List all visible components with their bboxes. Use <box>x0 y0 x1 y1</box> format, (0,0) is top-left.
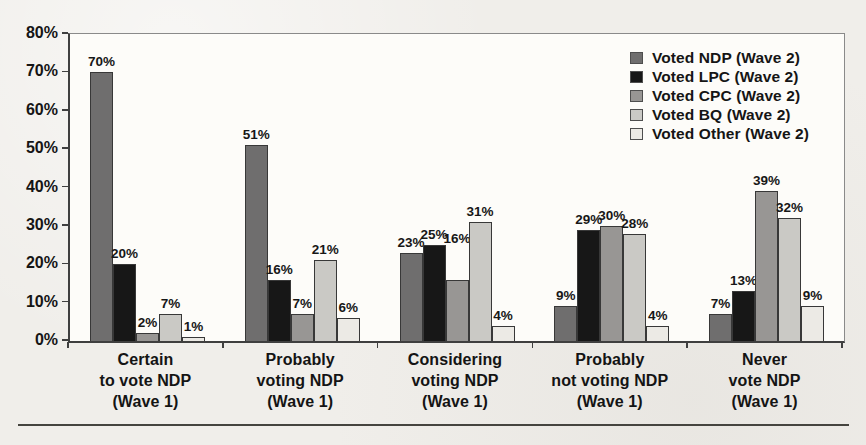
x-axis-category-label-0: Certain to vote NDP (Wave 1) <box>68 349 223 412</box>
legend-swatch-icon <box>630 71 643 83</box>
bar-series-4-group-0 <box>182 337 205 341</box>
bar-series-3-group-3 <box>623 234 646 341</box>
bar-value-label: 70% <box>88 54 115 69</box>
legend-item-3: Voted BQ (Wave 2) <box>630 107 809 123</box>
bar-series-3-group-1 <box>314 260 337 341</box>
bar-value-label: 28% <box>621 216 648 231</box>
bar-chart: 70%20%2%7%1%51%16%7%21%6%23%25%16%31%4%9… <box>0 0 866 445</box>
bar-value-label: 6% <box>338 300 358 315</box>
bar-value-label: 20% <box>111 246 138 261</box>
bar-series-2-group-3 <box>600 226 623 341</box>
chart-legend: Voted NDP (Wave 2)Voted LPC (Wave 2)Vote… <box>630 50 809 142</box>
legend-item-2: Voted CPC (Wave 2) <box>630 88 809 104</box>
x-axis-tick-mark <box>377 342 379 348</box>
legend-item-1: Voted LPC (Wave 2) <box>630 69 809 85</box>
bar-series-1-group-0 <box>113 264 136 341</box>
y-axis-tick-label: 50% <box>0 139 58 157</box>
y-axis-tick-label: 0% <box>0 331 58 349</box>
x-axis-tick-mark <box>222 342 224 348</box>
legend-label: Voted BQ (Wave 2) <box>652 106 791 124</box>
bar-value-label: 31% <box>466 204 493 219</box>
legend-item-0: Voted NDP (Wave 2) <box>630 50 809 66</box>
bar-value-label: 1% <box>184 319 204 334</box>
bar-series-3-group-2 <box>469 222 492 341</box>
y-axis-tick-mark <box>62 147 68 149</box>
bar-value-label: 13% <box>730 273 757 288</box>
bar-series-0-group-4 <box>709 314 732 341</box>
bar-series-2-group-0 <box>136 333 159 341</box>
bar-value-label: 7% <box>292 296 312 311</box>
y-axis-tick-mark <box>62 71 68 73</box>
plot-area: 70%20%2%7%1%51%16%7%21%6%23%25%16%31%4%9… <box>68 33 845 343</box>
y-axis-tick-label: 20% <box>0 254 58 272</box>
x-axis-tick-mark <box>67 342 69 348</box>
x-axis-tick-mark <box>686 342 688 348</box>
bar-series-2-group-1 <box>291 314 314 341</box>
x-axis-tick-mark <box>532 342 534 348</box>
y-axis-tick-label: 70% <box>0 62 58 80</box>
bar-series-1-group-4 <box>732 291 755 341</box>
bar-series-0-group-0 <box>90 72 113 341</box>
y-axis-tick-label: 80% <box>0 24 58 42</box>
bar-series-2-group-2 <box>446 280 469 341</box>
y-axis-tick-label: 40% <box>0 178 58 196</box>
y-axis-tick-mark <box>62 301 68 303</box>
bar-value-label: 32% <box>776 200 803 215</box>
y-axis-tick-label: 10% <box>0 293 58 311</box>
bar-value-label: 16% <box>266 262 293 277</box>
bar-value-label: 16% <box>443 231 470 246</box>
y-axis-tick-mark <box>62 339 68 341</box>
bar-value-label: 4% <box>493 308 513 323</box>
y-axis-tick-mark <box>62 186 68 188</box>
legend-label: Voted LPC (Wave 2) <box>652 68 798 86</box>
bar-series-0-group-2 <box>400 253 423 341</box>
bar-value-label: 7% <box>711 296 731 311</box>
bar-series-4-group-2 <box>492 326 515 341</box>
bar-value-label: 39% <box>753 173 780 188</box>
bar-series-3-group-0 <box>159 314 182 341</box>
x-axis-category-label-3: Probably not voting NDP (Wave 1) <box>532 349 687 412</box>
bar-value-label: 4% <box>648 308 668 323</box>
bar-value-label: 21% <box>312 242 339 257</box>
bar-series-3-group-4 <box>778 218 801 341</box>
y-axis-tick-mark <box>62 32 68 34</box>
y-axis-tick-mark <box>62 109 68 111</box>
bar-value-label: 2% <box>138 315 158 330</box>
x-axis-category-label-2: Considering voting NDP (Wave 1) <box>378 349 533 412</box>
legend-label: Voted NDP (Wave 2) <box>652 49 800 67</box>
legend-item-4: Voted Other (Wave 2) <box>630 126 809 142</box>
bar-value-label: 9% <box>556 288 576 303</box>
legend-label: Voted Other (Wave 2) <box>652 125 809 143</box>
legend-swatch-icon <box>630 128 643 140</box>
y-axis-tick-label: 60% <box>0 101 58 119</box>
bar-series-0-group-1 <box>245 145 268 341</box>
legend-swatch-icon <box>630 109 643 121</box>
bar-series-1-group-2 <box>423 245 446 341</box>
y-axis-tick-mark <box>62 263 68 265</box>
y-axis-tick-mark <box>62 224 68 226</box>
bar-series-4-group-3 <box>646 326 669 341</box>
legend-swatch-icon <box>630 52 643 64</box>
legend-swatch-icon <box>630 90 643 102</box>
bar-series-4-group-1 <box>337 318 360 341</box>
x-axis-tick-mark <box>841 342 843 348</box>
bar-series-2-group-4 <box>755 191 778 341</box>
bar-value-label: 51% <box>243 127 270 142</box>
x-axis-category-label-4: Never vote NDP (Wave 1) <box>687 349 842 412</box>
y-axis-tick-label: 30% <box>0 216 58 234</box>
bar-value-label: 7% <box>161 296 181 311</box>
bar-series-0-group-3 <box>554 306 577 341</box>
bar-series-1-group-1 <box>268 280 291 341</box>
x-axis-category-label-1: Probably voting NDP (Wave 1) <box>223 349 378 412</box>
bar-series-4-group-4 <box>801 306 824 341</box>
bar-series-1-group-3 <box>577 230 600 341</box>
legend-label: Voted CPC (Wave 2) <box>652 87 800 105</box>
bar-value-label: 9% <box>803 288 823 303</box>
bottom-rule-divider <box>18 424 849 426</box>
